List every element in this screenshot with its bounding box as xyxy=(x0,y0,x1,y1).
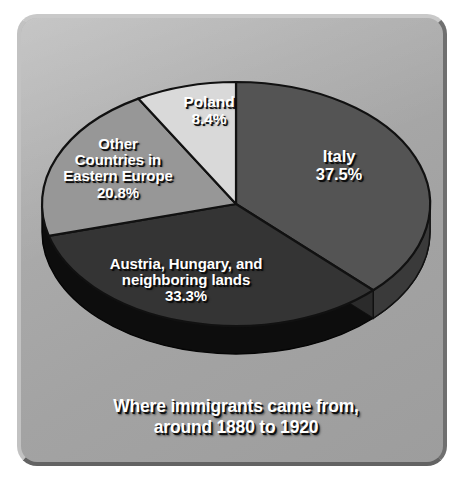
chart-stage: Italy 37.5% Poland 8.4% Other Countries … xyxy=(21,18,447,466)
chart-caption: Where immigrants came from, around 1880 … xyxy=(21,396,447,439)
chart-caption-line1: Where immigrants came from, xyxy=(21,396,447,417)
pie-top-faces xyxy=(42,82,430,326)
chart-plate: Italy 37.5% Poland 8.4% Other Countries … xyxy=(17,14,447,466)
pie-chart-graphic xyxy=(21,18,447,378)
chart-caption-line2: around 1880 to 1920 xyxy=(21,417,447,438)
